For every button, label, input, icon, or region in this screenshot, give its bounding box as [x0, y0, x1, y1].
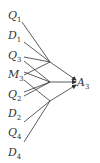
label-subscript: 2 [17, 114, 21, 122]
label-subscript: 1 [17, 16, 21, 24]
node-q3: Q3 [8, 50, 22, 64]
label-base: A [77, 76, 85, 89]
edge-d2 [24, 101, 50, 122]
edge-q1 [22, 22, 50, 62]
label-subscript: 1 [17, 36, 21, 44]
label-base: D [8, 29, 17, 42]
label-subscript: 3 [17, 56, 21, 64]
node-d4: D4 [8, 147, 21, 161]
label-base: D [8, 146, 17, 159]
node-q2: Q2 [8, 89, 22, 103]
edge-m3-middle [24, 72, 50, 82]
label-base: Q [8, 126, 17, 139]
label-subscript: 3 [85, 83, 89, 91]
node-m3: M3 [8, 69, 24, 83]
node-q4: Q4 [8, 127, 22, 141]
arrow-upper [50, 62, 76, 80]
label-base: M [8, 68, 19, 81]
node-d1: D1 [8, 30, 21, 44]
node-q1: Q1 [8, 10, 22, 24]
label-subscript: 2 [17, 95, 21, 103]
edge-d1 [24, 42, 50, 62]
arrow-lower [50, 85, 76, 101]
label-subscript: 4 [17, 133, 21, 141]
label-base: Q [8, 49, 17, 62]
label-subscript: 4 [17, 153, 21, 161]
edge-q2-b [24, 82, 50, 96]
label-base: D [8, 107, 17, 120]
label-subscript: 3 [19, 75, 23, 83]
label-base: Q [8, 88, 17, 101]
edge-q4 [24, 101, 50, 142]
node-d2: D2 [8, 108, 21, 122]
node-a3: A3 [77, 77, 89, 91]
label-base: Q [8, 9, 17, 22]
